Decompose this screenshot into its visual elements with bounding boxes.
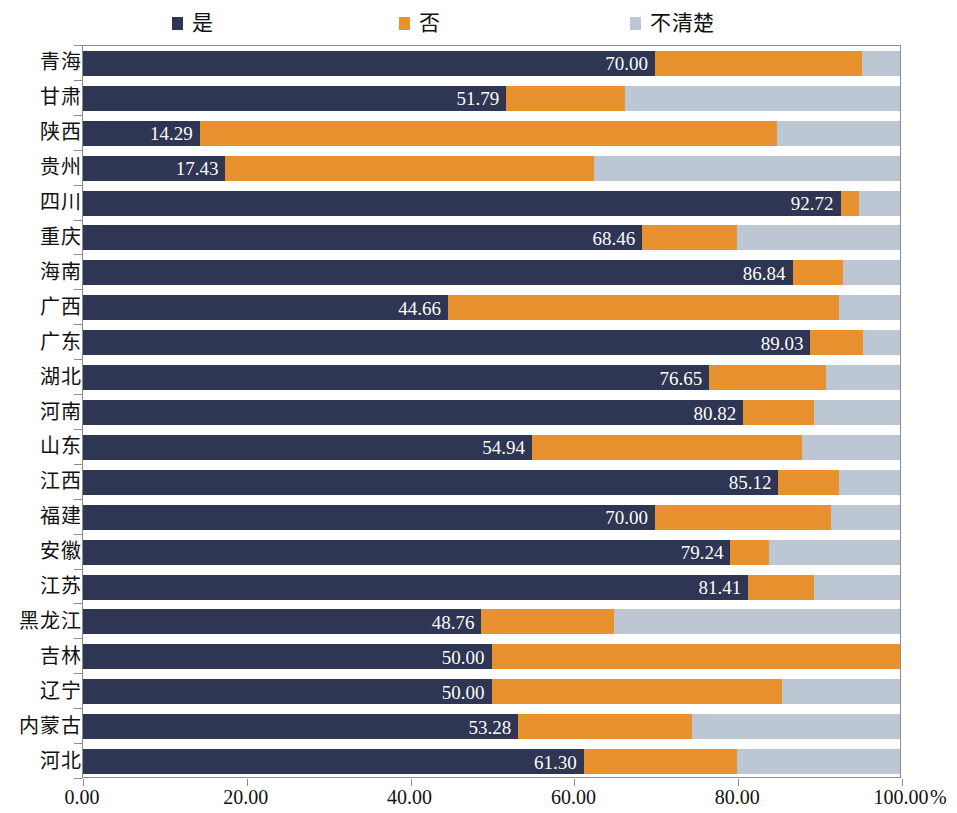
legend-item-unknown: 不清楚 — [630, 13, 715, 34]
bar-segment-no — [841, 191, 860, 216]
bar-segment-no — [793, 260, 843, 285]
bar-segment-unknown — [814, 575, 900, 600]
y-axis-category-label: 河南 — [6, 402, 82, 422]
table-row: 85.12 — [83, 470, 900, 495]
y-axis-category-label: 江苏 — [6, 576, 82, 596]
bar-segment-yes: 80.82 — [83, 400, 743, 425]
x-axis-labels: 0.0020.0040.0060.0080.00100.00% — [0, 787, 957, 813]
bar-segment-yes: 70.00 — [83, 505, 655, 530]
table-row: 48.76 — [83, 609, 900, 634]
legend-swatch-unknown — [630, 17, 641, 30]
stacked-bar-chart: 是 否 不清楚 青海甘肃陕西贵州四川重庆海南广西广东湖北河南山东江西福建安徽江苏… — [0, 0, 957, 813]
bar-segment-yes: 68.46 — [83, 225, 642, 250]
bar-segment-unknown — [614, 609, 900, 634]
y-axis-tick — [74, 394, 82, 395]
bar-segment-unknown — [782, 679, 900, 704]
bar-segment-yes: 51.79 — [83, 86, 506, 111]
legend-label-unknown: 不清楚 — [650, 13, 715, 34]
y-axis-category-label: 黑龙江 — [6, 611, 82, 631]
y-axis-tick — [74, 185, 82, 186]
y-axis-tick — [74, 45, 82, 46]
bar-value-label: 89.03 — [761, 333, 804, 352]
table-row: 50.00 — [83, 679, 900, 704]
bar-segment-yes: 14.29 — [83, 121, 200, 146]
bar-segment-unknown — [831, 505, 900, 530]
bar-segment-unknown — [826, 365, 900, 390]
y-axis-tick — [74, 603, 82, 604]
bar-segment-no — [200, 121, 778, 146]
bar-value-label: 81.41 — [698, 578, 741, 597]
x-axis-tick-label: 40.00 — [387, 787, 432, 807]
bar-segment-yes: 79.24 — [83, 540, 730, 565]
bar-segment-no — [743, 400, 814, 425]
y-axis-category-label: 甘肃 — [6, 87, 82, 107]
x-axis-tick — [574, 779, 575, 786]
table-row: 70.00 — [83, 505, 900, 530]
bar-value-label: 79.24 — [681, 543, 724, 562]
x-axis-unit-label: % — [930, 787, 947, 807]
y-axis-category-label: 四川 — [6, 192, 82, 212]
bar-segment-unknown — [839, 295, 900, 320]
legend-item-no: 否 — [399, 13, 441, 34]
bar-segment-unknown — [862, 51, 900, 76]
y-axis-tick — [74, 464, 82, 465]
bar-segment-no — [709, 365, 826, 390]
bar-segment-yes: 50.00 — [83, 679, 492, 704]
table-row: 80.82 — [83, 400, 900, 425]
y-axis-category-label: 山东 — [6, 436, 82, 456]
bar-value-label: 85.12 — [729, 473, 772, 492]
table-row: 70.00 — [83, 51, 900, 76]
bar-segment-no — [532, 435, 802, 460]
y-axis-tick — [74, 150, 82, 151]
legend-swatch-no — [399, 17, 410, 30]
y-axis-category-label: 海南 — [6, 262, 82, 282]
table-row: 53.28 — [83, 714, 900, 739]
bar-segment-yes: 44.66 — [83, 295, 448, 320]
y-axis-tick — [74, 673, 82, 674]
legend-label-no: 否 — [419, 13, 441, 34]
table-row: 81.41 — [83, 575, 900, 600]
y-axis-tick — [74, 638, 82, 639]
bar-segment-unknown — [859, 191, 900, 216]
bar-segment-yes: 92.72 — [83, 191, 841, 216]
y-axis-tick — [74, 708, 82, 709]
y-axis-tick — [74, 778, 82, 779]
legend-swatch-yes — [172, 17, 183, 30]
bar-segment-yes: 76.65 — [83, 365, 709, 390]
table-row: 14.29 — [83, 121, 900, 146]
bar-segment-yes: 70.00 — [83, 51, 655, 76]
y-axis-tick — [74, 254, 82, 255]
table-row: 17.43 — [83, 156, 900, 181]
x-axis-tick — [247, 779, 248, 786]
bar-rows: 70.0051.7914.2917.4392.7268.4686.8444.66… — [83, 46, 900, 777]
bar-value-label: 17.43 — [176, 159, 219, 178]
bar-segment-unknown — [843, 260, 900, 285]
bar-segment-unknown — [814, 400, 900, 425]
bar-segment-yes: 86.84 — [83, 260, 793, 285]
y-axis-category-label: 辽宁 — [6, 681, 82, 701]
y-axis-category-label: 湖北 — [6, 367, 82, 387]
bar-segment-unknown — [839, 470, 900, 495]
bar-segment-no — [778, 470, 838, 495]
plot-area: 70.0051.7914.2917.4392.7268.4686.8444.66… — [82, 45, 901, 778]
bar-segment-no — [225, 156, 593, 181]
bar-value-label: 92.72 — [791, 194, 834, 213]
bar-segment-no — [492, 679, 782, 704]
table-row: 50.00 — [83, 644, 900, 669]
bar-segment-yes: 54.94 — [83, 435, 532, 460]
y-axis-category-label: 内蒙古 — [6, 716, 82, 736]
bar-segment-yes: 53.28 — [83, 714, 518, 739]
bar-value-label: 76.65 — [659, 368, 702, 387]
y-axis-category-label: 吉林 — [6, 646, 82, 666]
bar-segment-no — [584, 749, 737, 774]
table-row: 86.84 — [83, 260, 900, 285]
x-axis-tick — [738, 779, 739, 786]
x-axis-tick — [902, 779, 903, 786]
y-axis: 青海甘肃陕西贵州四川重庆海南广西广东湖北河南山东江西福建安徽江苏黑龙江吉林辽宁内… — [0, 45, 82, 778]
bar-value-label: 70.00 — [605, 508, 648, 527]
y-axis-tick — [74, 499, 82, 500]
bar-segment-no — [448, 295, 839, 320]
bar-segment-unknown — [737, 749, 900, 774]
y-axis-category-label: 福建 — [6, 506, 82, 526]
bar-segment-no — [481, 609, 614, 634]
